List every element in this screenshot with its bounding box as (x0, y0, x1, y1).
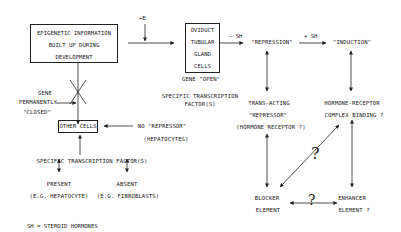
blocker-element-label: BLOCKER (255, 196, 279, 202)
gene-closed-label: GENE (38, 91, 52, 97)
trans-acting-label: (HORMONE RECEPTOR ?) (236, 125, 305, 131)
plus-sh-label: + SH (304, 34, 317, 40)
no-repressor-label: NO "REPRESSOR" (138, 124, 187, 130)
box-line: CELLS (186, 64, 219, 70)
enhancer-element-label: ELEMENT ? (338, 208, 369, 214)
oviduct-tubular-gland-cells-box: OVIDUCT TUBULAR GLAND CELLS (185, 23, 220, 73)
hormone-receptor-label: COMPLEX BINDING ? (325, 113, 384, 119)
enhancer-element-label: ENHANCER (338, 196, 366, 202)
box-line: DEVELOPMENT (31, 55, 117, 61)
footnote-label: SH = STEROID HORMONES (27, 224, 98, 230)
box-line: EPIGENETIC INFORMATION (31, 31, 117, 37)
absent-example-label: (E.G. FIBROBLASTS) (97, 194, 159, 200)
gene-closed-label: PERMANENTLY (19, 100, 57, 106)
trans-acting-label: TRANS-ACTING (248, 101, 290, 107)
question-mark-diagonal: ? (311, 146, 320, 162)
box-line: GLAND (186, 52, 219, 58)
hormone-receptor-label: HORMONE-RECEPTOR (324, 101, 379, 107)
specific-tf-bottom-label: SPECIFIC TRANSCRIPTION FACTOR(S) (37, 159, 148, 165)
specific-tf-top-label: SPECIFIC TRANSCRIPTION (162, 94, 238, 100)
present-label: PRESENT (47, 182, 71, 188)
gene-open-label: GENE "OPEN" (182, 77, 220, 83)
trans-acting-label: "REPRESSOR" (249, 113, 287, 119)
repression-label: "REPRESSION" (251, 40, 293, 46)
specific-tf-top-label: FACTOR(S) (184, 102, 215, 108)
present-example-label: (E.G. HEPATOCYTE) (30, 194, 89, 200)
minus-sh-label: − SH (229, 34, 242, 40)
box-line: TUBULAR (186, 40, 219, 46)
box-line: BUILT UP DURING (31, 43, 117, 49)
question-mark-horizontal: ? (308, 193, 316, 207)
box-line: OVIDUCT (186, 28, 219, 34)
plus-e-label: +E (139, 16, 146, 22)
other-cells-box: OTHER CELLS (58, 120, 98, 133)
epigenetic-information-box: EPIGENETIC INFORMATION BUILT UP DURING D… (30, 24, 118, 63)
induction-label: "INDUCTION" (333, 40, 371, 46)
gene-closed-label: "CLOSED" (23, 110, 51, 116)
absent-label: ABSENT (117, 182, 138, 188)
no-repressor-label: (HEPATOCYTES) (143, 137, 188, 143)
box-line: OTHER CELLS (59, 124, 97, 130)
blocker-element-label: ELEMENT (256, 208, 280, 214)
